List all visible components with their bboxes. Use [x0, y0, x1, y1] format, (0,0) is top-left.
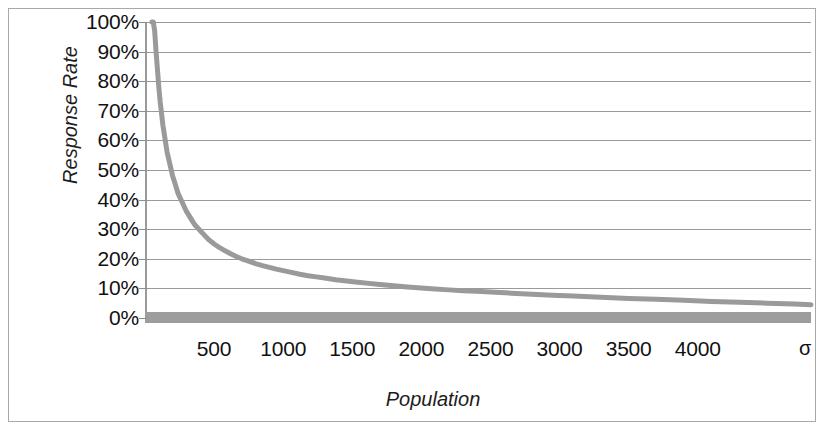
y-axis-tick-label: 10%: [55, 276, 139, 300]
y-axis-tick-mark: [139, 318, 147, 319]
gridline: [145, 140, 811, 141]
y-axis-tick-mark: [139, 111, 147, 112]
y-axis-tick-mark: [139, 52, 147, 53]
y-axis-tick-label: 70%: [55, 99, 139, 123]
x-axis-tick-label: 1000: [260, 337, 306, 361]
gridline: [145, 229, 811, 230]
y-axis-tick-mark: [139, 288, 147, 289]
x-axis-baseline-bar: [145, 312, 811, 323]
y-axis-tick-label: 80%: [55, 69, 139, 93]
x-axis-tick-label: 3500: [606, 337, 652, 361]
gridline: [145, 111, 811, 112]
x-axis-tick-label: 500: [197, 337, 231, 361]
gridline: [145, 259, 811, 260]
y-axis-tick-label: 90%: [55, 40, 139, 64]
y-axis-tick-mark: [139, 200, 147, 201]
x-axis-tick-label: 2500: [467, 337, 513, 361]
x-axis-tick-labels: 5001000150020002500300035004000σ: [0, 337, 826, 369]
x-axis-tick-label: 2000: [398, 337, 444, 361]
x-axis-tick-label: 4000: [675, 337, 721, 361]
y-axis-tick-label: 50%: [55, 158, 139, 182]
y-axis-tick-label: 60%: [55, 128, 139, 152]
plot-area: [145, 22, 811, 318]
y-axis-tick-mark: [139, 170, 147, 171]
x-axis-title: Population: [0, 388, 826, 411]
y-axis-tick-mark: [139, 229, 147, 230]
gridline: [145, 288, 811, 289]
y-axis-tick-label: 20%: [55, 247, 139, 271]
gridline: [145, 22, 811, 23]
gridline: [145, 170, 811, 171]
y-axis-tick-mark: [139, 22, 147, 23]
gridline: [145, 52, 811, 53]
y-axis-tick-label: 100%: [55, 10, 139, 34]
chart-figure: Response Rate 100%90%80%70%60%50%40%30%2…: [0, 0, 826, 432]
y-axis-tick-label: 40%: [55, 188, 139, 212]
gridline: [145, 200, 811, 201]
y-axis-tick-mark: [139, 140, 147, 141]
x-axis-tick-label: 3000: [537, 337, 583, 361]
x-axis-tick-label: 1500: [329, 337, 375, 361]
y-axis-tick-mark: [139, 81, 147, 82]
x-axis-end-symbol: σ: [799, 337, 811, 360]
y-axis-tick-label: 30%: [55, 217, 139, 241]
x-axis-title-text: Population: [346, 388, 481, 410]
y-axis-tick-mark: [139, 259, 147, 260]
gridline: [145, 81, 811, 82]
y-axis-tick-label: 0%: [55, 306, 139, 330]
